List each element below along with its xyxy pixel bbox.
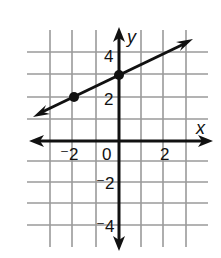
y-tick-4: 4 <box>104 48 113 65</box>
x-tick-origin: 0 <box>102 146 111 163</box>
y-tick-neg2: ⁻2 <box>96 175 114 192</box>
point-0-3 <box>114 70 124 80</box>
point-neg2-2 <box>69 92 79 102</box>
y-tick-2: 2 <box>104 91 113 108</box>
x-axis-label: x <box>196 119 205 137</box>
x-tick-2: 2 <box>160 146 169 163</box>
x-tick-neg2: ⁻2 <box>60 146 78 163</box>
y-axis <box>113 27 125 251</box>
y-tick-neg4: ⁻4 <box>96 218 114 235</box>
y-axis-label: y <box>127 28 136 46</box>
